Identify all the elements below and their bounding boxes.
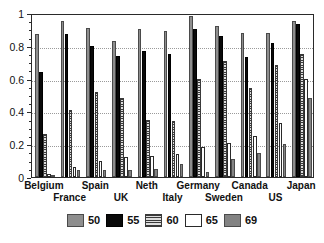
bar xyxy=(215,26,219,177)
bar xyxy=(138,29,142,177)
bar xyxy=(43,134,47,177)
x-axis-label: Belgium xyxy=(24,181,63,191)
y-axis-tick-label: 0.2 xyxy=(9,140,24,151)
bar xyxy=(197,79,201,177)
bar xyxy=(99,161,103,177)
bar xyxy=(206,172,210,177)
bar xyxy=(65,34,69,177)
bar xyxy=(219,36,223,177)
bar xyxy=(90,46,94,177)
bar xyxy=(51,175,55,177)
bar xyxy=(189,16,193,177)
bar xyxy=(223,61,227,177)
x-axis-label: France xyxy=(53,193,86,203)
bar xyxy=(296,24,300,177)
bar xyxy=(39,72,43,177)
bar-group xyxy=(264,15,290,177)
bar xyxy=(249,88,253,177)
y-axis-tick-label: 0.4 xyxy=(9,107,24,118)
bar xyxy=(241,33,245,177)
y-axis-tick-label: 0.6 xyxy=(9,74,24,85)
legend-label: 69 xyxy=(245,215,257,226)
x-axis-label: Japan xyxy=(287,181,316,191)
bar xyxy=(193,29,197,177)
legend-swatch xyxy=(224,214,241,227)
legend-entry: 60 xyxy=(145,214,178,227)
legend-label: 65 xyxy=(206,215,218,226)
bar xyxy=(69,110,73,177)
bar xyxy=(283,144,287,177)
x-axis-label: Neth xyxy=(136,181,158,191)
bar xyxy=(253,136,257,177)
x-axis-label: Sweden xyxy=(205,193,243,203)
legend-swatch xyxy=(106,214,123,227)
bar xyxy=(257,153,261,177)
legend-entry: 50 xyxy=(67,214,100,227)
bar xyxy=(77,170,81,177)
bar xyxy=(201,147,205,177)
bar-group xyxy=(212,15,238,177)
x-axis-label: US xyxy=(268,193,282,203)
legend-label: 60 xyxy=(166,215,178,226)
legend-label: 55 xyxy=(127,215,139,226)
bar-group xyxy=(32,15,58,177)
bar xyxy=(116,56,120,177)
legend-entry: 55 xyxy=(106,214,139,227)
bar xyxy=(227,143,231,177)
bar-group xyxy=(83,15,109,177)
x-axis-label: Germany xyxy=(177,181,220,191)
y-axis-tick-label: 1 xyxy=(18,9,24,20)
bar xyxy=(180,164,184,177)
bar xyxy=(168,54,172,177)
bar xyxy=(279,123,283,177)
bar-group xyxy=(238,15,264,177)
y-axis-tick-label: 0.8 xyxy=(9,42,24,53)
chart-legend: 5055606569 xyxy=(0,208,324,232)
bar xyxy=(150,156,154,177)
bar xyxy=(266,33,270,177)
legend-swatch xyxy=(185,214,202,227)
bar xyxy=(73,167,77,177)
legend-swatch xyxy=(67,214,84,227)
x-axis-label: Italy xyxy=(162,193,182,203)
x-axis-labels: BelgiumFranceSpainUKNethItalyGermanySwed… xyxy=(0,178,324,206)
x-axis-label: Spain xyxy=(82,181,109,191)
bar xyxy=(308,98,312,177)
bar xyxy=(300,54,304,177)
bar xyxy=(275,65,279,177)
bar-chart-figure: 00.20.40.60.81 BelgiumFranceSpainUKNethI… xyxy=(0,0,324,243)
bar xyxy=(172,121,176,177)
bar-group xyxy=(161,15,187,177)
bar xyxy=(231,159,235,177)
bar-group xyxy=(289,15,315,177)
y-axis: 00.20.40.60.81 xyxy=(0,0,31,192)
bar xyxy=(103,170,107,177)
bar xyxy=(95,92,99,177)
bar xyxy=(164,31,168,177)
bar xyxy=(128,170,132,177)
bar xyxy=(47,174,51,177)
plot-area xyxy=(31,14,314,178)
legend-entry: 65 xyxy=(185,214,218,227)
bar xyxy=(120,98,124,177)
bar-group xyxy=(135,15,161,177)
bar-group xyxy=(186,15,212,177)
bar xyxy=(35,34,39,177)
bar xyxy=(304,79,308,177)
bar xyxy=(271,43,275,177)
bar xyxy=(245,57,249,177)
bar xyxy=(112,41,116,177)
bar xyxy=(154,169,158,177)
bar xyxy=(61,21,65,177)
bar-group xyxy=(109,15,135,177)
x-axis-label: Canada xyxy=(232,181,268,191)
bar xyxy=(142,51,146,177)
bar-group xyxy=(58,15,84,177)
legend-label: 50 xyxy=(88,215,100,226)
legend-swatch xyxy=(145,214,162,227)
bar xyxy=(292,21,296,177)
bar xyxy=(124,157,128,177)
bar xyxy=(146,120,150,177)
bar xyxy=(86,28,90,177)
x-axis-label: UK xyxy=(114,193,128,203)
